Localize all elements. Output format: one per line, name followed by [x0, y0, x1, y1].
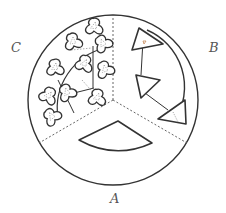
sector-a-shape [79, 121, 152, 151]
sector-label-b: B [209, 41, 219, 54]
sector-b-shapes [132, 28, 186, 124]
partitioned-circle-diagram [0, 0, 226, 213]
sector-label-c: C [11, 41, 21, 54]
sector-c-shapes [37, 16, 116, 127]
sector-label-a: A [110, 192, 119, 205]
